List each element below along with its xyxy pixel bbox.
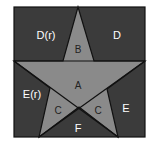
region-label: A	[75, 80, 82, 91]
region-label: D	[113, 29, 121, 41]
star-diagram: D(r)DBAE(r)CCEF	[0, 0, 149, 142]
region-label: C	[54, 105, 61, 116]
region-label: F	[75, 122, 82, 134]
region-label: B	[75, 44, 82, 55]
region-label: D(r)	[37, 29, 56, 41]
region-label: E(r)	[23, 88, 41, 100]
region-label: C	[94, 105, 101, 116]
region-label: E	[122, 102, 129, 114]
